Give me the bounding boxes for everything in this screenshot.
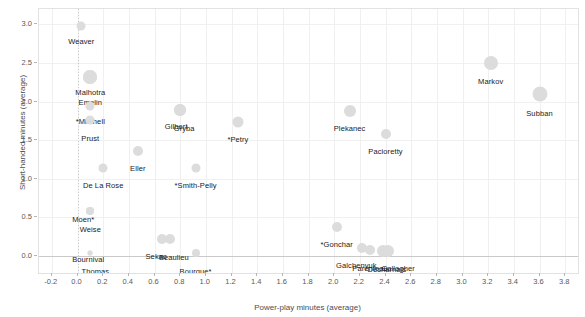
- y-tick-mark: [34, 255, 37, 256]
- gridline-vertical: [386, 9, 387, 273]
- x-tick-mark: [308, 273, 309, 276]
- x-tick-mark: [359, 273, 360, 276]
- y-tick-label: 2.0: [8, 96, 32, 105]
- gridline-vertical: [180, 9, 181, 273]
- data-point[interactable]: [77, 22, 86, 31]
- y-tick-mark: [34, 62, 37, 63]
- data-point-label: Moen*: [72, 215, 94, 224]
- data-point[interactable]: [99, 164, 108, 173]
- data-point-label: Malhotra: [75, 88, 105, 97]
- data-point-label: Gryba: [174, 124, 195, 133]
- data-point[interactable]: [83, 70, 97, 84]
- x-tick-mark: [539, 273, 540, 276]
- gridline-vertical: [540, 9, 541, 273]
- data-point[interactable]: [86, 207, 94, 215]
- data-point[interactable]: [165, 234, 175, 244]
- x-tick-label: 3.6: [533, 277, 543, 286]
- gridline-vertical: [206, 9, 207, 273]
- y-tick-label: 3.0: [8, 19, 32, 28]
- x-tick-label: 1.0: [200, 277, 210, 286]
- x-tick-label: 2.2: [354, 277, 364, 286]
- x-tick-label: 1.8: [302, 277, 312, 286]
- y-tick-mark: [34, 23, 37, 24]
- data-point[interactable]: [381, 129, 391, 139]
- data-point[interactable]: [232, 116, 243, 127]
- reference-line-horizontal: [39, 256, 578, 257]
- data-point-label: Beaulieu: [159, 253, 189, 262]
- data-point-label: *Smith-Pelly: [175, 181, 217, 190]
- data-point[interactable]: [86, 116, 95, 125]
- data-point[interactable]: [86, 101, 95, 110]
- data-point-label: Weise: [80, 225, 101, 234]
- x-tick-label: 2.8: [431, 277, 441, 286]
- x-tick-label: 0.4: [123, 277, 133, 286]
- x-tick-label: 3.8: [559, 277, 569, 286]
- gridline-vertical: [514, 9, 515, 273]
- x-tick-label: 3.2: [482, 277, 492, 286]
- data-point-label: Pacioretty: [368, 147, 402, 156]
- x-tick-mark: [102, 273, 103, 276]
- y-tick-label: 1.0: [8, 173, 32, 182]
- x-tick-label: 1.6: [277, 277, 287, 286]
- y-tick-mark: [34, 178, 37, 179]
- data-point[interactable]: [133, 146, 143, 156]
- y-tick-mark: [34, 139, 37, 140]
- data-point-label: Thomas: [81, 267, 109, 274]
- x-tick-label: -0.2: [44, 277, 57, 286]
- data-point-label: Markov: [478, 77, 503, 86]
- gridline-vertical: [103, 9, 104, 273]
- x-tick-mark: [436, 273, 437, 276]
- y-tick-mark: [34, 101, 37, 102]
- data-point[interactable]: [88, 250, 93, 255]
- gridline-vertical: [334, 9, 335, 273]
- y-tick-label: 0.0: [8, 251, 32, 260]
- data-point-label: Plekanec: [334, 124, 366, 133]
- data-point[interactable]: [484, 56, 498, 70]
- x-tick-mark: [231, 273, 232, 276]
- x-tick-mark: [282, 273, 283, 276]
- data-point[interactable]: [192, 249, 200, 257]
- data-point-label: Bourque*: [180, 267, 212, 274]
- x-tick-label: 0.0: [71, 277, 81, 286]
- x-tick-label: 0.6: [148, 277, 158, 286]
- x-tick-mark: [154, 273, 155, 276]
- data-point-label: Subban: [526, 109, 552, 118]
- data-point-label: Bournival: [72, 255, 104, 264]
- x-tick-mark: [205, 273, 206, 276]
- x-tick-label: 3.4: [508, 277, 518, 286]
- x-tick-label: 2.4: [379, 277, 389, 286]
- data-point[interactable]: [191, 164, 200, 173]
- x-tick-label: 1.4: [251, 277, 261, 286]
- data-point-label: Weaver: [68, 37, 94, 46]
- gridline-vertical: [309, 9, 310, 273]
- data-point-label: Eller: [130, 164, 146, 173]
- data-point[interactable]: [382, 245, 394, 257]
- data-point[interactable]: [344, 105, 356, 117]
- data-point[interactable]: [174, 104, 186, 116]
- x-tick-label: 1.2: [225, 277, 235, 286]
- data-point[interactable]: [365, 245, 375, 255]
- gridline-vertical: [411, 9, 412, 273]
- gridline-vertical: [437, 9, 438, 273]
- data-point-label: De La Rose: [83, 181, 124, 190]
- gridline-vertical: [488, 9, 489, 273]
- x-axis-label: Power-play minutes (average): [38, 303, 577, 312]
- y-tick-mark: [34, 216, 37, 217]
- gridline-vertical: [565, 9, 566, 273]
- x-tick-mark: [564, 273, 565, 276]
- x-tick-mark: [410, 273, 411, 276]
- data-point[interactable]: [332, 222, 342, 232]
- data-point[interactable]: [532, 86, 547, 101]
- x-tick-label: 2.6: [405, 277, 415, 286]
- x-tick-label: 0.8: [174, 277, 184, 286]
- gridline-vertical: [360, 9, 361, 273]
- reference-line-vertical: [78, 9, 79, 273]
- x-tick-mark: [256, 273, 257, 276]
- x-tick-mark: [77, 273, 78, 276]
- scatter-chart: WeaverMalhotraEmelin*MitchellPrustGilber…: [0, 0, 585, 317]
- x-tick-mark: [333, 273, 334, 276]
- x-tick-mark: [179, 273, 180, 276]
- x-tick-label: 0.2: [97, 277, 107, 286]
- gridline-vertical: [155, 9, 156, 273]
- gridline-vertical: [52, 9, 53, 273]
